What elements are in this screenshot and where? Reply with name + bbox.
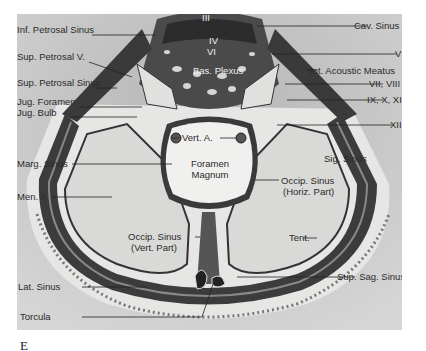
label-sup-sag-sinus: Sup. Sag. Sinus xyxy=(337,272,402,282)
label-vert-a: Vert. A. xyxy=(182,133,213,143)
label-occip-sinus-vert-1: Occip. Sinus xyxy=(128,232,181,242)
label-occip-sinus-horiz-2: (Horiz. Part) xyxy=(283,187,334,197)
label-int-acoustic-meatus: Int. Acoustic Meatus xyxy=(310,66,395,76)
anatomy-illustration: Inf. Petrosal Sinus Sup. Petrosal V. Sup… xyxy=(17,14,402,330)
label-nerve-vii-viii: VII, VIII xyxy=(369,79,400,89)
label-tent: Tent. xyxy=(289,233,310,243)
label-nerve-vi: VI xyxy=(207,47,216,57)
label-sig-sinus: Sig. Sinus xyxy=(324,154,367,164)
label-foramen-magnum-2: Magnum xyxy=(185,170,235,180)
figure-letter: E xyxy=(20,338,28,351)
label-sup-petrosal-v: Sup. Petrosal V. xyxy=(17,52,85,62)
label-nerve-ix-x-xi: IX, X, XI xyxy=(367,95,402,105)
label-torcula: Torcula xyxy=(20,312,51,322)
label-men-a: Men. A xyxy=(17,192,47,202)
label-foramen-magnum-1: Foramen xyxy=(185,159,235,169)
label-nerve-v: V xyxy=(395,49,401,59)
label-nerve-iii: III xyxy=(202,14,210,23)
label-lat-sinus: Lat. Sinus xyxy=(18,282,60,292)
label-cav-sinus: Cav. Sinus xyxy=(354,21,399,31)
label-bas-plexus: Bas. Plexus xyxy=(193,66,243,76)
label-occip-sinus-vert-2: (Vert. Part) xyxy=(131,243,177,253)
label-jug-foramen: Jug. Foramen xyxy=(17,97,76,107)
label-sup-petrosal-sinus: Sup. Petrosal Sinus xyxy=(17,78,100,88)
label-occip-sinus-horiz-1: Occip. Sinus xyxy=(281,176,334,186)
label-marg-sinus: Marg. Sinus xyxy=(17,159,68,169)
label-nerve-xii: XII xyxy=(390,120,402,130)
label-inf-petrosal-sinus: Inf. Petrosal Sinus xyxy=(17,25,94,35)
label-nerve-iv: IV xyxy=(209,36,218,46)
label-jug-bulb: Jug. Bulb xyxy=(17,108,57,118)
